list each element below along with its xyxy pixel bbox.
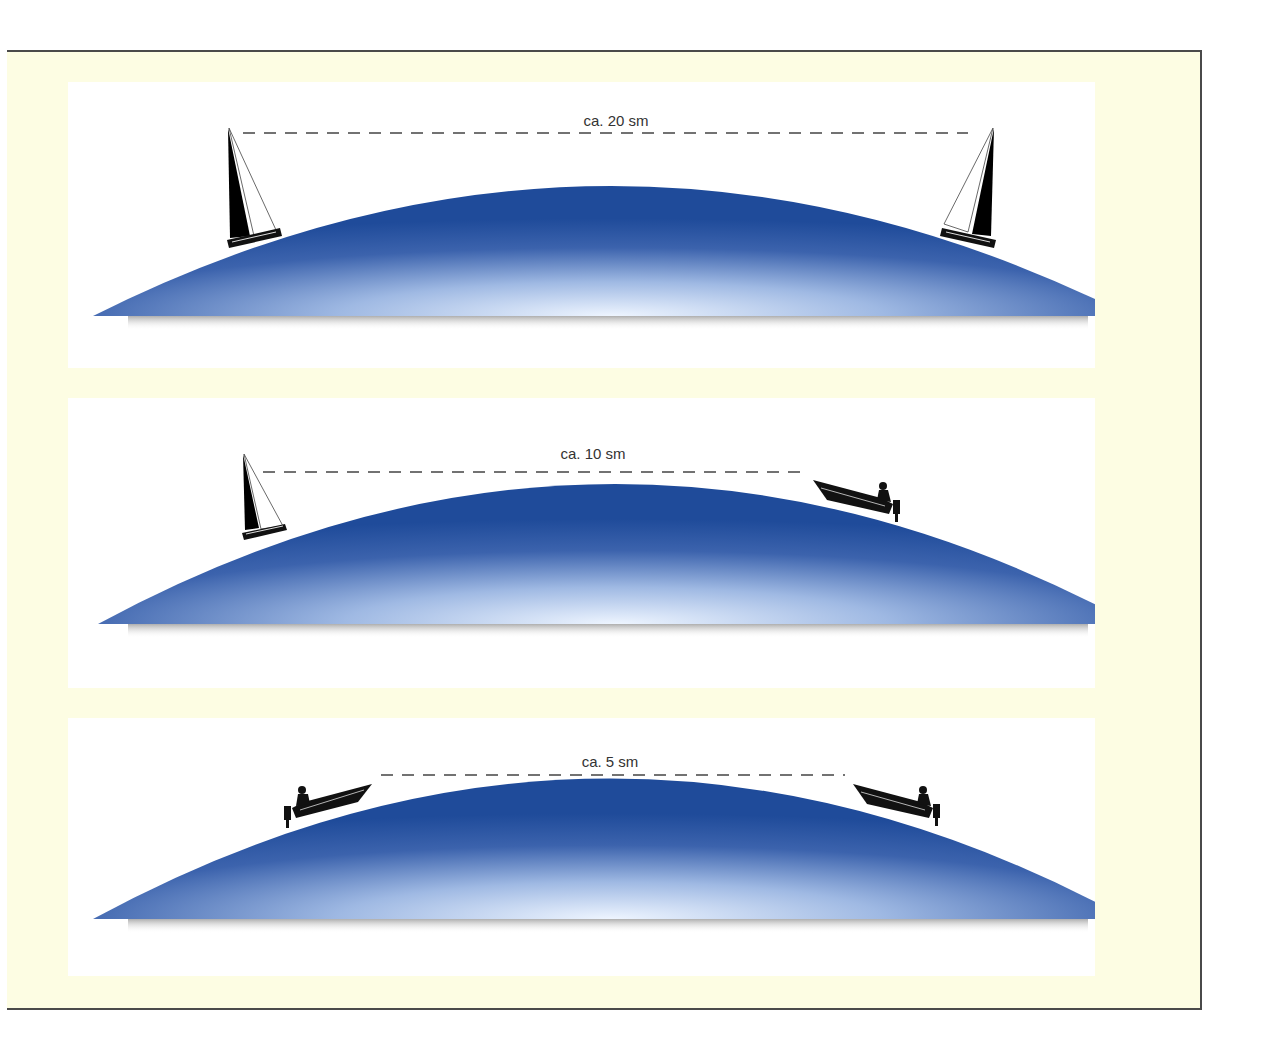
panel-10sm: ca. 10 sm <box>68 398 1095 688</box>
distance-label: ca. 10 sm <box>560 445 625 462</box>
sailboat-icon <box>242 454 287 540</box>
sailboat-icon <box>227 128 282 248</box>
horizon-shadow <box>128 316 1088 330</box>
horizon-shadow <box>128 624 1088 638</box>
panel-20sm: ca. 20 sm <box>68 82 1095 368</box>
panel-5sm: ca. 5 sm <box>68 718 1095 976</box>
distance-label: ca. 20 sm <box>583 112 648 129</box>
panel-20sm-graphic <box>68 82 1095 368</box>
sea-curvature-dome <box>93 779 1095 920</box>
distance-label: ca. 5 sm <box>582 753 639 770</box>
horizon-shadow <box>128 919 1088 933</box>
panel-10sm-graphic <box>68 398 1095 688</box>
sailboat-icon <box>940 128 996 248</box>
